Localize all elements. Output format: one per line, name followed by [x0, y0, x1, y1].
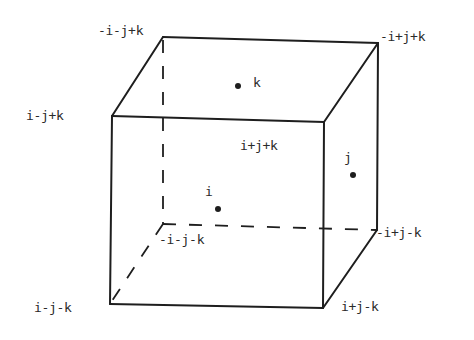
point-label-k: k	[253, 76, 261, 89]
vertex-label-back-top-right: -i+j+k	[380, 30, 425, 43]
point-i-dot	[215, 206, 221, 212]
cube-drawing	[0, 0, 474, 340]
edge-front-left	[110, 116, 112, 304]
edge-bottom-left-depth-hidden	[110, 224, 163, 304]
point-label-i: i	[205, 185, 213, 198]
vertex-label-front-bottom-right: i+j-k	[341, 300, 379, 313]
edge-top-right-depth	[324, 43, 378, 122]
edge-back-top	[163, 37, 378, 43]
edge-top-left-depth	[112, 37, 163, 116]
vertex-label-front-bottom-left: i-j-k	[34, 301, 72, 314]
vertex-label-front-top-right: i+j+k	[240, 139, 278, 152]
vertex-label-back-bottom-left: -i-j-k	[159, 233, 204, 246]
edge-front-bottom	[110, 304, 323, 308]
edge-back-bottom-hidden	[163, 224, 377, 230]
point-j-dot	[350, 172, 356, 178]
vertex-label-front-top-left: i-j+k	[26, 109, 64, 122]
cube-diagram: -i-j+k -i+j+k i-j+k i+j+k -i-j-k -i+j-k …	[0, 0, 474, 340]
edge-front-top	[112, 116, 324, 122]
point-k-dot	[235, 83, 241, 89]
edge-bottom-right-depth	[323, 230, 377, 308]
edge-back-right	[377, 43, 378, 230]
vertex-label-back-top-left: -i-j+k	[98, 24, 143, 37]
point-label-j: j	[344, 151, 352, 164]
vertex-label-back-bottom-right: -i+j-k	[376, 226, 421, 239]
edge-front-right	[323, 122, 324, 308]
